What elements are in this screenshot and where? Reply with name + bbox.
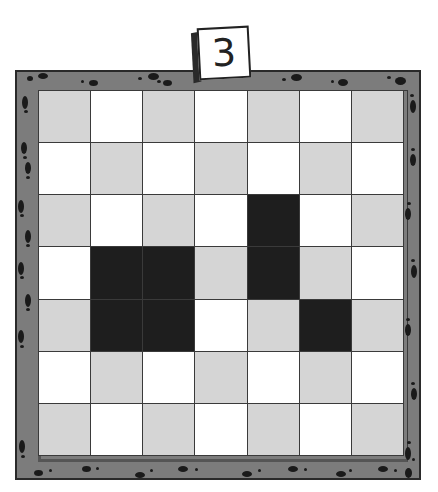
board-cell-1-2[interactable] bbox=[143, 143, 194, 194]
board-cell-4-4[interactable] bbox=[248, 300, 299, 351]
board-cell-5-6[interactable] bbox=[352, 352, 403, 403]
footprint-icon bbox=[349, 469, 352, 472]
footprint-icon bbox=[411, 259, 415, 262]
board-cell-0-2[interactable] bbox=[143, 91, 194, 142]
board-cell-3-3[interactable] bbox=[195, 247, 246, 298]
board-cell-3-5[interactable] bbox=[300, 247, 351, 298]
footprint-icon bbox=[258, 469, 261, 472]
board-cell-4-5[interactable] bbox=[300, 300, 351, 351]
footprint-icon bbox=[291, 74, 302, 81]
footprint-icon bbox=[405, 208, 411, 220]
footprint-icon bbox=[378, 466, 388, 472]
board-cell-1-6[interactable] bbox=[352, 143, 403, 194]
board-cell-6-2[interactable] bbox=[143, 404, 194, 455]
level-number: 3 bbox=[211, 33, 237, 72]
board-cell-5-3[interactable] bbox=[195, 352, 246, 403]
board-cell-1-3[interactable] bbox=[195, 143, 246, 194]
footprint-icon bbox=[25, 162, 31, 174]
footprint-icon bbox=[25, 294, 31, 307]
footprint-icon bbox=[411, 388, 417, 400]
footprint-icon bbox=[18, 200, 24, 213]
board-cell-2-5[interactable] bbox=[300, 195, 351, 246]
game-board-grid bbox=[38, 90, 404, 456]
board-cell-6-4[interactable] bbox=[248, 404, 299, 455]
board-cell-2-4[interactable] bbox=[248, 195, 299, 246]
board-cell-6-6[interactable] bbox=[352, 404, 403, 455]
footprint-icon bbox=[163, 80, 172, 86]
board-cell-3-6[interactable] bbox=[352, 247, 403, 298]
board-cell-0-1[interactable] bbox=[91, 91, 142, 142]
board-cell-1-1[interactable] bbox=[91, 143, 142, 194]
board-cell-0-6[interactable] bbox=[352, 91, 403, 142]
footprint-icon bbox=[338, 79, 348, 86]
footprint-icon bbox=[22, 96, 28, 109]
footprint-icon bbox=[410, 154, 416, 166]
board-cell-3-4[interactable] bbox=[248, 247, 299, 298]
board-cell-0-5[interactable] bbox=[300, 91, 351, 142]
board-cell-5-1[interactable] bbox=[91, 352, 142, 403]
footprint-icon bbox=[25, 230, 31, 243]
footprint-icon bbox=[407, 441, 411, 444]
board-cell-2-0[interactable] bbox=[39, 195, 90, 246]
footprint-icon bbox=[387, 76, 391, 79]
footprint-icon bbox=[138, 77, 142, 80]
board-cell-2-3[interactable] bbox=[195, 195, 246, 246]
footprint-icon bbox=[157, 80, 161, 83]
board-cell-0-0[interactable] bbox=[39, 91, 90, 142]
board-cell-5-5[interactable] bbox=[300, 352, 351, 403]
board-cell-4-2[interactable] bbox=[143, 300, 194, 351]
footprint-icon bbox=[20, 276, 24, 279]
board-cell-6-1[interactable] bbox=[91, 404, 142, 455]
footprint-icon bbox=[21, 455, 25, 458]
footprint-icon bbox=[82, 466, 91, 472]
footprint-icon bbox=[394, 469, 397, 472]
footprint-icon bbox=[405, 447, 411, 460]
board-cell-1-0[interactable] bbox=[39, 143, 90, 194]
board-cell-3-2[interactable] bbox=[143, 247, 194, 298]
footprint-icon bbox=[26, 308, 30, 311]
footprint-icon bbox=[410, 94, 414, 97]
board-cell-4-6[interactable] bbox=[352, 300, 403, 351]
board-cell-1-5[interactable] bbox=[300, 143, 351, 194]
footprint-icon bbox=[395, 77, 406, 85]
footprint-icon bbox=[412, 458, 415, 461]
footprint-icon bbox=[89, 80, 98, 86]
board-cell-6-5[interactable] bbox=[300, 404, 351, 455]
board-cell-5-0[interactable] bbox=[39, 352, 90, 403]
footprint-icon bbox=[405, 468, 412, 478]
footprint-icon bbox=[282, 78, 286, 81]
board-cell-2-6[interactable] bbox=[352, 195, 403, 246]
footprint-icon bbox=[26, 176, 30, 179]
board-cell-3-1[interactable] bbox=[91, 247, 142, 298]
board-cell-0-4[interactable] bbox=[248, 91, 299, 142]
footprint-icon bbox=[405, 324, 411, 336]
footprint-icon bbox=[21, 142, 27, 154]
board-cell-6-0[interactable] bbox=[39, 404, 90, 455]
board-cell-5-2[interactable] bbox=[143, 352, 194, 403]
footprint-icon bbox=[150, 469, 153, 472]
board-cell-4-3[interactable] bbox=[195, 300, 246, 351]
footprint-icon bbox=[20, 214, 24, 217]
footprint-icon bbox=[242, 471, 252, 477]
footprint-icon bbox=[34, 470, 43, 476]
board-cell-4-0[interactable] bbox=[39, 300, 90, 351]
footprint-icon bbox=[23, 156, 27, 159]
board-cell-3-0[interactable] bbox=[39, 247, 90, 298]
board-cell-4-1[interactable] bbox=[91, 300, 142, 351]
board-cell-5-4[interactable] bbox=[248, 352, 299, 403]
footprint-icon bbox=[18, 330, 24, 343]
footprint-icon bbox=[288, 466, 298, 472]
board-cell-1-4[interactable] bbox=[248, 143, 299, 194]
board-cell-2-2[interactable] bbox=[143, 195, 194, 246]
footprint-icon bbox=[24, 110, 28, 113]
board-cell-2-1[interactable] bbox=[91, 195, 142, 246]
footprint-icon bbox=[411, 382, 415, 385]
footprint-icon bbox=[178, 466, 188, 472]
footprint-icon bbox=[81, 80, 84, 83]
footprint-icon bbox=[407, 202, 411, 205]
board-cell-0-3[interactable] bbox=[195, 91, 246, 142]
footprint-icon bbox=[135, 472, 145, 478]
board-cell-6-3[interactable] bbox=[195, 404, 246, 455]
footprint-icon bbox=[27, 76, 33, 81]
footprint-icon bbox=[38, 73, 48, 79]
